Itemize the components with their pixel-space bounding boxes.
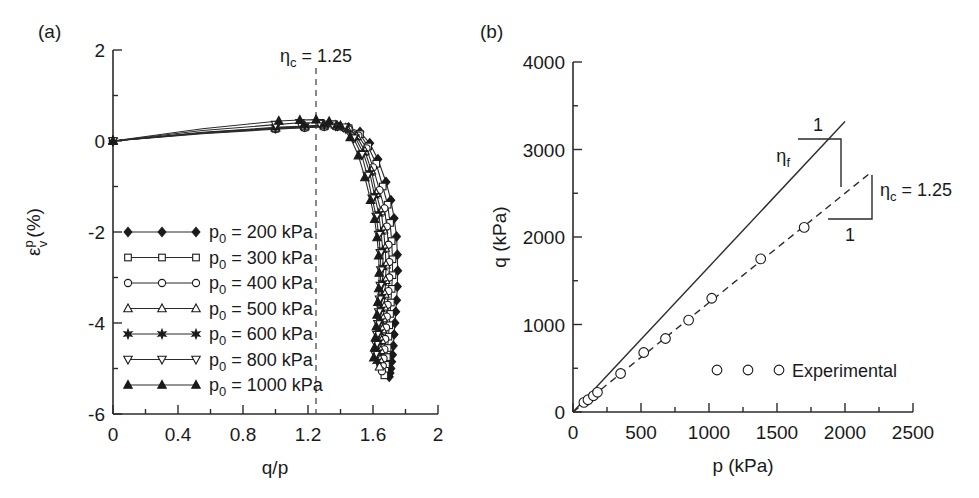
- marker-open-circle: [593, 387, 603, 397]
- y-tick-0: 2: [94, 40, 105, 61]
- legend-item-6[interactable]: p0 = 1000 kPa: [124, 375, 324, 399]
- panel-a-y-ticklabels: 2 0 -2 -4 -6: [88, 40, 105, 425]
- legend-label-base: p: [209, 222, 219, 242]
- panel-a-ylabel: εpv(%): [21, 208, 50, 256]
- eta-f-base: η: [776, 146, 786, 166]
- legend-label-sub: 0: [219, 282, 226, 297]
- marker-open-circle: [707, 293, 717, 303]
- marker-filled-diamond: [158, 227, 166, 236]
- xb-tick-4: 2000: [824, 422, 866, 443]
- marker-open-circle: [712, 365, 722, 375]
- panel-b: (b): [470, 0, 979, 498]
- legend-label-rest: = 400 kPa: [226, 273, 314, 293]
- y-tick-2: -2: [88, 222, 105, 243]
- marker-open-circle: [684, 315, 694, 325]
- panel-b-xlabel: p (kPa): [712, 455, 773, 476]
- marker-open-square: [193, 254, 200, 261]
- marker-open-triangle-down: [158, 356, 166, 364]
- legend-label-rest: = 1000 kPa: [226, 375, 324, 395]
- yb-tick-4: 4000: [523, 52, 565, 73]
- panel-b-y-ticklabels: 0 1000 2000 3000 4000: [523, 52, 565, 423]
- panel-a-xlabel: q/p: [262, 457, 288, 478]
- legend-label-sub: 0: [219, 257, 226, 272]
- marker-open-triangle-down: [192, 356, 200, 364]
- marker-open-circle: [192, 279, 199, 286]
- legend-label-sub: 0: [219, 333, 226, 348]
- panel-a-legend[interactable]: p0 = 200 kPap0 = 300 kPap0 = 400 kPap0 =…: [124, 222, 324, 399]
- eta-c-label-b: ηc = 1.25: [880, 180, 952, 204]
- x-tick-1: 0.4: [165, 424, 192, 445]
- legend-label-3: p0 = 500 kPa: [209, 299, 314, 323]
- marker-open-circle: [661, 334, 671, 344]
- marker-open-triangle-down: [124, 356, 132, 364]
- legend-label-base: p: [209, 375, 219, 395]
- marker-open-circle: [639, 348, 649, 358]
- legend-label-2: p0 = 400 kPa: [209, 273, 314, 297]
- marker-filled-triangle-up: [158, 380, 166, 388]
- figure-root: (a): [0, 0, 979, 498]
- marker-open-circle: [756, 254, 766, 264]
- marker-open-square: [125, 254, 132, 261]
- legend-item-1[interactable]: p0 = 300 kPa: [125, 248, 314, 272]
- marker-filled-diamond: [124, 227, 132, 236]
- legend-item-5[interactable]: p0 = 800 kPa: [124, 350, 314, 374]
- ylabel-sup: p: [21, 240, 36, 247]
- marker-filled-diamond: [192, 227, 200, 236]
- legend-label-1: p0 = 300 kPa: [209, 248, 314, 272]
- legend-label-0: p0 = 200 kPa: [209, 222, 314, 246]
- eta-f-label: ηf: [776, 146, 790, 170]
- panel-b-legend[interactable]: Experimental: [712, 361, 897, 381]
- eta-c-run-label: 1: [845, 225, 855, 245]
- marker-open-square: [159, 254, 166, 261]
- y-tick-4: -6: [88, 404, 105, 425]
- panel-a: (a): [0, 0, 490, 498]
- legend-label-base: p: [209, 273, 219, 293]
- yb-tick-3: 3000: [523, 140, 565, 161]
- legend-item-3[interactable]: p0 = 500 kPa: [124, 299, 314, 323]
- panel-b-x-ticklabels: 0 500 1000 1500 2000 2500: [568, 422, 934, 443]
- panel-a-label: (a): [38, 21, 61, 42]
- eta-f-slope-triangle: 1 ηf: [776, 115, 841, 187]
- ylabel-sub: v: [35, 240, 50, 247]
- eta-c-annotation: ηc = 1.25: [280, 46, 352, 70]
- marker-open-circle: [158, 279, 165, 286]
- legend-label-base: p: [209, 350, 219, 370]
- legend-label-4: p0 = 600 kPa: [209, 324, 314, 348]
- legend-label-6: p0 = 1000 kPa: [209, 375, 324, 399]
- legend-label-rest: = 500 kPa: [226, 299, 314, 319]
- panel-b-axes: [573, 62, 913, 412]
- legend-label-rest: = 800 kPa: [226, 350, 314, 370]
- marker-open-triangle-up: [192, 304, 200, 312]
- panel-b-ylabel-text: q (kPa): [489, 206, 510, 267]
- legend-label-experimental: Experimental: [792, 361, 897, 381]
- xb-tick-0: 0: [568, 422, 579, 443]
- ylabel-unit: (%): [23, 208, 44, 238]
- legend-label-rest: = 200 kPa: [226, 222, 314, 242]
- legend-item-0[interactable]: p0 = 200 kPa: [124, 222, 314, 246]
- x-tick-2: 0.8: [230, 424, 256, 445]
- yb-tick-1: 1000: [523, 315, 565, 336]
- legend-item-4[interactable]: p0 = 600 kPa: [124, 324, 314, 348]
- marker-open-circle: [799, 223, 809, 233]
- xb-tick-3: 1500: [756, 422, 798, 443]
- legend-label-base: p: [209, 248, 219, 268]
- legend-label-base: p: [209, 299, 219, 319]
- marker-open-triangle-up: [124, 304, 132, 312]
- panel-a-x-ticklabels: 0 0.4 0.8 1.2 1.6 2: [108, 424, 444, 445]
- legend-item-2[interactable]: p0 = 400 kPa: [124, 273, 313, 297]
- legend-label-rest: = 300 kPa: [226, 248, 314, 268]
- yb-tick-2: 2000: [523, 227, 565, 248]
- xb-tick-1: 500: [625, 422, 657, 443]
- eta-c-rest: = 1.25: [296, 46, 352, 66]
- panel-b-ylabel: q (kPa): [489, 206, 510, 267]
- eta-c-rest-b: = 1.25: [897, 180, 953, 200]
- legend-label-5: p0 = 800 kPa: [209, 350, 314, 374]
- panel-a-svg: (a): [0, 0, 490, 498]
- legend-label-sub: 0: [219, 359, 226, 374]
- y-tick-3: -4: [88, 313, 105, 334]
- marker-open-circle: [616, 369, 626, 379]
- x-tick-4: 1.6: [360, 424, 386, 445]
- legend-label-sub: 0: [219, 308, 226, 323]
- legend-label-sub: 0: [219, 384, 226, 399]
- marker-filled-triangle-up: [192, 380, 200, 388]
